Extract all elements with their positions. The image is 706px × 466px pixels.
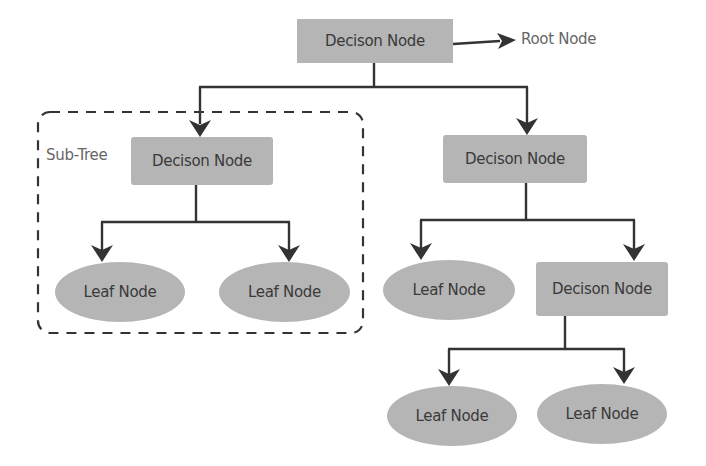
right-sub-decision-node: Decison Node bbox=[536, 262, 668, 316]
left-leaf-node-2: Leaf Node bbox=[219, 262, 350, 322]
node-label: Decison Node bbox=[552, 280, 652, 298]
annotation-text: Root Node bbox=[521, 30, 596, 48]
left-decision-node: Decison Node bbox=[131, 137, 273, 185]
root-decision-node: Decison Node bbox=[297, 19, 453, 63]
annotation-text: Sub-Tree bbox=[46, 146, 107, 164]
node-label: Leaf Node bbox=[248, 283, 321, 301]
tree-connectors bbox=[101, 41, 635, 374]
root-node-annotation: Root Node bbox=[521, 30, 596, 48]
node-label: Leaf Node bbox=[415, 407, 488, 425]
right-decision-node: Decison Node bbox=[443, 135, 587, 183]
node-label: Leaf Node bbox=[83, 283, 156, 301]
subtree-annotation: Sub-Tree bbox=[46, 146, 107, 164]
decision-tree-diagram: Decison Node Root Node Sub-Tree Decison … bbox=[0, 0, 706, 466]
node-label: Decison Node bbox=[152, 152, 252, 170]
left-leaf-node-1: Leaf Node bbox=[55, 262, 185, 322]
node-label: Leaf Node bbox=[565, 405, 638, 423]
node-label: Decison Node bbox=[465, 150, 565, 168]
bottom-leaf-node-2: Leaf Node bbox=[537, 384, 667, 444]
node-label: Decison Node bbox=[325, 32, 425, 50]
right-leaf-node: Leaf Node bbox=[383, 260, 515, 320]
bottom-leaf-node-1: Leaf Node bbox=[387, 386, 517, 446]
node-label: Leaf Node bbox=[412, 281, 485, 299]
